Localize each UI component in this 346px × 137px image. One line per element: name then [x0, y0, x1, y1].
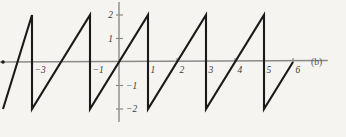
sawtooth-figure: −3−1123456 21−1−2 (b) — [0, 0, 346, 137]
x-tick-label: 6 — [296, 65, 301, 75]
x-tick-label: −1 — [93, 65, 104, 75]
x-tick-label: 3 — [208, 65, 214, 75]
y-tick-label: −2 — [126, 104, 137, 114]
x-tick-label: −3 — [35, 65, 46, 75]
x-tick-label: 2 — [180, 65, 185, 75]
axes-group — [0, 2, 328, 122]
panel-label: (b) — [311, 57, 322, 68]
y-tick-label: 1 — [108, 34, 113, 44]
plot-canvas: −3−1123456 21−1−2 (b) — [0, 0, 346, 137]
x-tick-label: 5 — [267, 65, 272, 75]
y-tick-label: 2 — [108, 10, 113, 20]
x-tick-label: 4 — [238, 65, 243, 75]
y-tick-label: −1 — [126, 81, 137, 91]
x-tick-label: 1 — [151, 65, 156, 75]
waveform-start-marker — [1, 60, 5, 64]
x-axis-line — [0, 61, 328, 63]
